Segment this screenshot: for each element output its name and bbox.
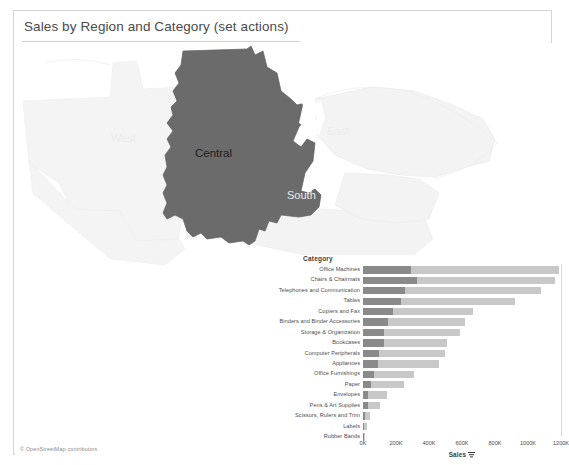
bar-track (363, 318, 561, 325)
region-label-west: West (111, 132, 136, 144)
bar-row[interactable]: Computer Peripherals (272, 349, 550, 359)
bar-track (363, 287, 561, 294)
axis-tick-label: 1200K (553, 440, 569, 446)
bar-selected-segment[interactable] (363, 329, 384, 336)
bar-selected-segment[interactable] (363, 308, 393, 315)
bar-track (363, 339, 561, 346)
bar-selected-segment[interactable] (363, 423, 364, 430)
axis-tick-label: 1000K (520, 440, 536, 446)
bar-row-label: Rubber Bands (324, 433, 360, 439)
bar-row[interactable]: Bookcases (272, 338, 550, 348)
bar-selected-segment[interactable] (363, 371, 374, 378)
bar-row-label: Scissors, Rulers and Trim (295, 412, 360, 418)
map-selected-region-central[interactable] (163, 46, 325, 245)
axis-tick-label: 600K (455, 440, 468, 446)
bar-row-label: Computer Peripherals (305, 350, 360, 356)
bar-selected-segment[interactable] (363, 298, 401, 305)
bar-row-label: Copiers and Fax (318, 308, 360, 314)
bar-row[interactable]: Tables (272, 296, 550, 306)
bar-track (363, 266, 561, 273)
bar-selected-segment[interactable] (363, 381, 371, 388)
bar-row-label: Storage & Organization (301, 329, 360, 335)
category-axis-header: Category (272, 255, 364, 262)
axis-title-label: Sales (449, 451, 467, 458)
axis-title: Sales (363, 451, 561, 458)
region-label-central: Central (195, 147, 232, 159)
sales-bar-chart: Category Office MachinesChairs & Chairma… (272, 255, 550, 453)
bar-selected-segment[interactable] (363, 402, 368, 409)
bar-selected-segment[interactable] (363, 412, 365, 419)
bar-track (363, 423, 561, 430)
dashboard-frame: Sales by Region and Category (set action… (13, 10, 552, 455)
bar-row[interactable]: Envelopes (272, 390, 550, 400)
axis-tick-label: 200K (389, 440, 402, 446)
bar-row-label: Tables (344, 297, 360, 303)
bar-row-label: Pens & Art Supplies (310, 402, 360, 408)
bar-rows: Office MachinesChairs & ChairmatsTelepho… (272, 265, 550, 442)
bar-row[interactable]: Pens & Art Supplies (272, 401, 550, 411)
bar-track (363, 381, 561, 388)
page-title: Sales by Region and Category (set action… (24, 19, 289, 34)
bar-track (363, 360, 561, 367)
bar-row-label: Chairs & Chairmats (311, 276, 360, 282)
bar-track (363, 298, 561, 305)
bar-track (363, 277, 561, 284)
bar-selected-segment[interactable] (363, 339, 384, 346)
bar-track (363, 402, 561, 409)
bar-row[interactable]: Paper (272, 380, 550, 390)
bar-row[interactable]: Labels (272, 422, 550, 432)
axis-tick-label: 800K (488, 440, 501, 446)
bar-selected-segment[interactable] (363, 360, 378, 367)
bar-selected-segment[interactable] (363, 350, 379, 357)
title-divider (22, 41, 300, 42)
map-attribution: © OpenStreetMap contributors (20, 446, 97, 452)
sales-axis: 0K200K400K600K800K1000K1200K Sales (363, 440, 561, 462)
region-label-south: South (287, 189, 316, 201)
bar-track (363, 412, 561, 419)
bar-row[interactable]: Binders and Binder Accessories (272, 317, 550, 327)
bar-selected-segment[interactable] (363, 277, 417, 284)
bar-selected-segment[interactable] (363, 318, 388, 325)
bar-track (363, 371, 561, 378)
bar-row-label: Binders and Binder Accessories (280, 318, 360, 324)
bar-row-label: Telephones and Communication (279, 287, 360, 293)
bar-selected-segment[interactable] (363, 287, 405, 294)
bar-row[interactable]: Telephones and Communication (272, 286, 550, 296)
bar-track (363, 329, 561, 336)
region-label-east: East (327, 125, 349, 137)
bar-row-label: Appliances (332, 360, 360, 366)
bar-row[interactable]: Office Furnishings (272, 369, 550, 379)
axis-tick-label: 400K (422, 440, 435, 446)
bar-row[interactable]: Office Machines (272, 265, 550, 275)
bar-track (363, 391, 561, 398)
axis-tick-label: 0K (360, 440, 367, 446)
bar-row-label: Envelopes (333, 391, 360, 397)
bar-selected-segment[interactable] (363, 266, 411, 273)
bar-row[interactable]: Appliances (272, 359, 550, 369)
bar-row[interactable]: Scissors, Rulers and Trim (272, 411, 550, 421)
bar-row-label: Bookcases (332, 339, 360, 345)
bar-track (363, 350, 561, 357)
bar-row-label: Office Furnishings (314, 370, 360, 376)
bar-row-label: Labels (343, 423, 360, 429)
bar-selected-segment[interactable] (363, 391, 368, 398)
bar-row[interactable]: Storage & Organization (272, 328, 550, 338)
bar-row-label: Office Machines (319, 266, 360, 272)
bar-track (363, 308, 561, 315)
plot-right-border (561, 264, 562, 436)
bar-row[interactable]: Chairs & Chairmats (272, 275, 550, 285)
bar-row[interactable]: Copiers and Fax (272, 307, 550, 317)
sort-descending-icon[interactable] (468, 452, 475, 458)
bar-row-label: Paper (345, 381, 360, 387)
